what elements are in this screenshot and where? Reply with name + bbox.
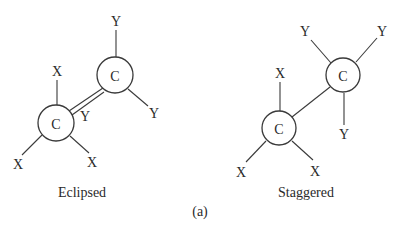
y-bond-upright — [356, 38, 377, 62]
caption-eclipsed: Eclipsed — [58, 185, 106, 200]
substituent-y: Y — [339, 127, 349, 142]
substituent-y: Y — [111, 14, 121, 29]
substituent-y: Y — [377, 24, 387, 39]
y-bond-upleft — [311, 40, 331, 63]
substituent-x: X — [275, 66, 285, 81]
x-bond-right — [70, 136, 89, 153]
staggered-panel: C C X X X Y Y Y Staggered — [236, 24, 387, 201]
carbon-label: C — [51, 117, 60, 132]
substituent-x: X — [310, 164, 320, 179]
substituent-x: X — [236, 165, 246, 180]
carbon-label: C — [110, 69, 119, 84]
x-bond-right — [292, 141, 313, 160]
carbon-label: C — [338, 69, 347, 84]
substituent-x: X — [13, 157, 23, 172]
caption-staggered: Staggered — [278, 185, 334, 200]
substituent-y: Y — [149, 106, 159, 121]
figure-label: (a) — [192, 204, 208, 220]
carbon-label: C — [274, 122, 283, 137]
x-bond-left — [246, 141, 266, 162]
substituent-x: X — [87, 155, 97, 170]
substituent-y: Y — [300, 24, 310, 39]
conformation-diagram: C C X X X Y Y Y Eclipsed C C X X X Y Y Y… — [0, 0, 401, 225]
substituent-x: X — [52, 64, 62, 79]
c-c-bond — [292, 87, 330, 117]
substituent-y: Y — [80, 109, 90, 124]
y-bond-right — [128, 89, 148, 106]
eclipsed-panel: C C X X X Y Y Y Eclipsed — [13, 14, 159, 201]
x-bond-left — [22, 135, 42, 155]
